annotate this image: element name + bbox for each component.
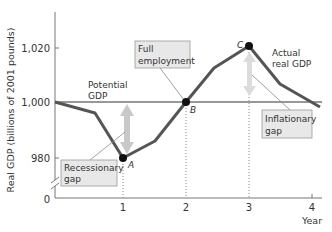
- inflationary-gap-arrow: [243, 52, 256, 96]
- recessionary-gap-label-2: gap: [64, 174, 81, 184]
- gdp-chart: Real GDP (billions of 2001 pounds) 1,020…: [0, 0, 332, 232]
- point-c: [245, 42, 253, 50]
- inflationary-gap-label-1: Inflationary: [265, 114, 317, 124]
- point-b: [182, 98, 190, 106]
- y-tick-label-1000: 1,000: [21, 97, 50, 108]
- y-tick-label-980: 980: [31, 153, 50, 164]
- origin-label: 0: [44, 194, 50, 205]
- infl-leader: [252, 75, 290, 110]
- actual-gdp-label-2: real GDP: [272, 59, 312, 69]
- x-axis-label: Year: [301, 215, 322, 226]
- potential-gdp-label-2: GDP: [88, 91, 108, 101]
- point-c-label: C: [237, 40, 244, 50]
- recessionary-gap-arrow: [120, 104, 134, 154]
- x-tick-label-4: 4: [309, 202, 315, 213]
- point-a: [119, 154, 127, 162]
- x-tick-label-2: 2: [183, 202, 189, 213]
- point-b-label: B: [190, 105, 196, 115]
- point-a-label: A: [127, 160, 134, 170]
- x-tick-label-3: 3: [246, 202, 252, 213]
- recessionary-gap-label-1: Recessionary: [64, 163, 124, 173]
- x-tick-label-1: 1: [120, 202, 126, 213]
- full-employment-label-2: employment: [138, 56, 195, 66]
- inflationary-gap-label-2: gap: [265, 126, 282, 136]
- full-employment-label-1: Full: [138, 44, 153, 54]
- y-tick-label-1020: 1,020: [21, 43, 50, 54]
- y-axis-label: Real GDP (billions of 2001 pounds): [5, 28, 16, 193]
- full-leader: [160, 68, 184, 100]
- potential-gdp-label-1: Potential: [88, 80, 127, 90]
- actual-gdp-label-1: Actual: [272, 48, 300, 58]
